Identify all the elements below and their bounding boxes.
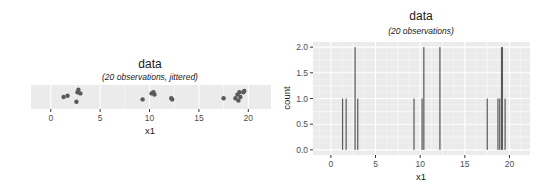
data-point [74,100,78,104]
x-tick-label: 5 [373,159,378,169]
histogram-bar [497,99,498,150]
histogram-bar [346,99,347,150]
x-tick-label: 5 [98,113,103,123]
data-point [61,95,65,99]
histogram-bar [354,47,355,150]
histogram-bar [413,99,414,150]
y-tick-label: 0.5 [296,119,308,129]
x-tick-label: 0 [328,159,333,169]
data-point [152,92,156,96]
y-tick-label: 1.0 [296,94,308,104]
data-point [221,96,225,100]
figure: data (20 observations, jittered) 0510152… [0,0,557,194]
x-tick-label: 0 [48,113,53,123]
data-point [237,90,241,94]
histogram-subtitle: (20 observations) [388,26,454,36]
histogram-bar [504,99,505,150]
x-tick-label: 15 [194,113,204,123]
y-tick-label: 1.5 [296,68,308,78]
histogram-x-label: x1 [416,171,426,182]
x-tick-label: 20 [244,113,254,123]
data-point [78,91,82,95]
histogram-bar [487,99,488,150]
x-tick-label: 20 [505,159,515,169]
histogram-bar [439,47,440,150]
jitter-chart-title: data [138,57,162,71]
data-point [242,89,246,93]
histogram-bar [342,99,343,150]
y-tick-label: 2.0 [296,42,308,52]
x-tick-label: 15 [460,159,470,169]
histogram-bar [421,99,422,150]
histogram-x-axis: 05101520 [328,155,514,169]
histogram-bar [357,99,358,150]
histogram-bar [423,47,424,150]
histogram-y-label: count [281,86,292,110]
histogram-y-axis: 0.00.51.01.52.0 [296,42,313,155]
data-point [140,97,144,101]
x-tick-label: 10 [145,113,155,123]
data-point [170,97,174,101]
jitter-chart-subtitle: (20 observations, jittered) [102,72,198,82]
x-tick-label: 10 [415,159,425,169]
histogram-title: data [409,9,433,23]
histogram-bar [502,47,503,150]
jitter-chart: data (20 observations, jittered) 0510152… [31,57,271,136]
data-point [65,94,69,98]
y-tick-label: 0.0 [296,145,308,155]
jitter-x-axis: 05101520 [48,109,253,123]
histogram-chart: data (20 observations) 05101520 0.00.51.… [281,9,530,182]
data-point [238,95,242,99]
histogram-bar [499,99,500,150]
jitter-x-label: x1 [145,125,155,136]
